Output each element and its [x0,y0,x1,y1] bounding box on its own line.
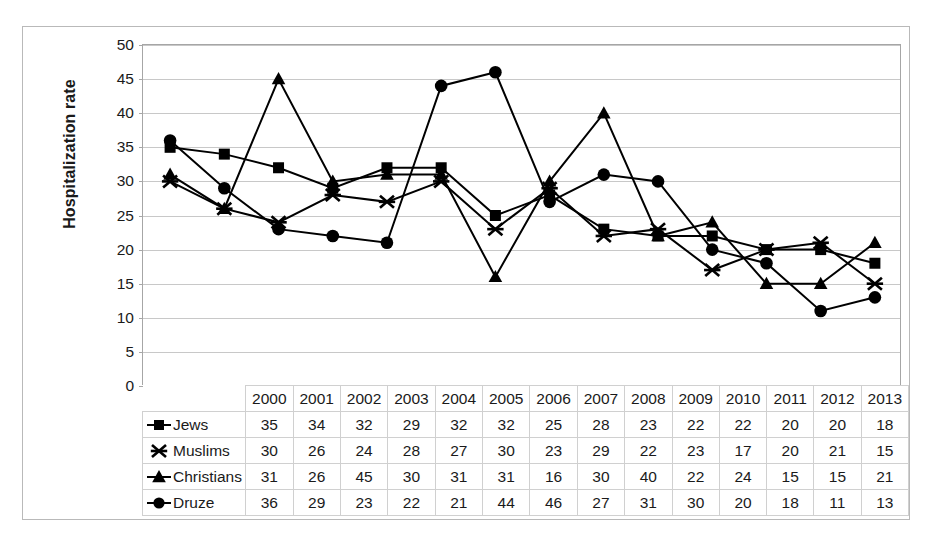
table-cell: 20 [719,490,766,516]
table-cell: 36 [246,490,293,516]
table-cell: 31 [435,464,482,490]
table-cell: 30 [483,438,530,464]
table-cell: 18 [767,490,814,516]
table-row-header-jews: Jews [143,412,246,438]
table-column-header: 2001 [293,386,340,412]
data-point-marker [326,230,339,243]
table-cell: 15 [767,464,814,490]
y-axis-tick-label: 25 [117,207,134,225]
table-cell: 21 [861,464,908,490]
table-cell: 22 [719,412,766,438]
y-axis-tick-label: 40 [117,104,134,122]
table-cell: 30 [577,464,624,490]
data-point-marker [814,305,827,318]
table-cell: 15 [814,464,861,490]
y-axis-tick-label: 20 [117,241,134,259]
legend-label: Muslims [173,442,230,460]
table-cell: 28 [388,438,435,464]
table-cell: 30 [246,438,293,464]
y-axis-tick-label: 5 [125,343,134,361]
table-cell: 26 [293,464,340,490]
table-cell: 25 [530,412,577,438]
legend-marker-square-icon [146,417,172,433]
table-cell: 23 [530,438,577,464]
series-druze [164,66,881,317]
y-axis-tick-label: 15 [117,275,134,293]
table-cell: 32 [483,412,530,438]
y-axis-tick-label: 0 [125,377,134,395]
table-cell: 23 [625,412,672,438]
legend-label: Druze [173,494,214,512]
table-cell: 22 [672,464,719,490]
data-point-marker [489,66,502,79]
table-column-header: 2006 [530,386,577,412]
table-cell: 11 [814,490,861,516]
table-cell: 27 [435,438,482,464]
y-axis-tick-label: 30 [117,172,134,190]
table-cell: 24 [719,464,766,490]
data-point-marker [272,223,285,236]
y-axis-tick-label: 10 [117,309,134,327]
data-point-marker [706,243,719,256]
table-column-header: 2008 [625,386,672,412]
series-muslims [162,175,883,289]
legend-marker-x-star-icon [146,443,172,459]
data-point-marker [490,210,501,221]
data-point-marker [705,215,719,227]
legend-marker-circle-icon [146,495,172,511]
table-cell: 16 [530,464,577,490]
table-column-header: 2009 [672,386,719,412]
table-cell: 22 [388,490,435,516]
data-point-marker [652,175,665,188]
data-point-marker [381,236,394,249]
table-cell: 32 [435,412,482,438]
table-cell: 20 [767,412,814,438]
table-column-header: 2007 [577,386,624,412]
series-lines-layer [143,45,902,386]
chart-container: Hospitalization rate 5045403530252015105… [22,26,910,520]
table-column-header: 2012 [814,386,861,412]
table-cell: 45 [340,464,387,490]
table-row: Christians3126453031311630402224151521 [143,464,909,490]
table-cell: 28 [577,412,624,438]
y-axis-tick-label: 50 [117,36,134,54]
table-cell: 32 [340,412,387,438]
table-cell: 17 [719,438,766,464]
table-cell: 35 [246,412,293,438]
table-header-row: 2000200120022003200420052006200720082009… [143,386,909,412]
table-cell: 40 [625,464,672,490]
table-row-header-druze: Druze [143,490,246,516]
table-cell: 15 [861,438,908,464]
data-point-marker [273,162,284,173]
table-row: Druze3629232221444627313020181113 [143,490,909,516]
data-point-marker [489,270,503,282]
table-cell: 20 [814,412,861,438]
table-column-header: 2000 [246,386,293,412]
table-cell: 18 [861,412,908,438]
y-axis-tick-label: 45 [117,70,134,88]
table-cell: 29 [577,438,624,464]
legend-label: Christians [173,468,242,486]
table-column-header: 2004 [435,386,482,412]
table-cell: 29 [388,412,435,438]
y-axis-title: Hospitalization rate [61,29,79,279]
series-line [170,72,875,311]
data-point-marker [760,257,773,270]
table-cell: 26 [293,438,340,464]
table-cell: 24 [340,438,387,464]
data-point-marker [704,264,720,276]
legend-marker-triangle-icon [146,469,172,485]
table-cell: 44 [483,490,530,516]
data-point-marker [598,168,611,181]
y-axis-tick-label: 35 [117,138,134,156]
table-cell: 34 [293,412,340,438]
table-row-header-christians: Christians [143,464,246,490]
data-point-marker [219,149,230,160]
data-point-marker [707,230,718,241]
table-row: Muslims3026242827302329222317202115 [143,438,909,464]
table-column-header: 2002 [340,386,387,412]
table-cell: 27 [577,490,624,516]
table-cell: 30 [388,464,435,490]
table-corner-cell [143,386,246,412]
table-row: Jews3534322932322528232222202018 [143,412,909,438]
